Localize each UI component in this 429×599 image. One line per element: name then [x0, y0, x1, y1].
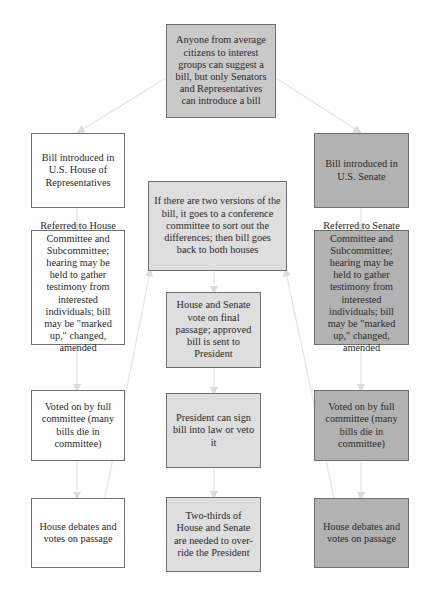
final-passage-text: House and Senate vote on final passage; …	[172, 299, 255, 360]
conference-committee-text: If there are two versions of the bill, i…	[154, 195, 281, 256]
senate-full-committee-box: Voted on by full committee (many bills d…	[314, 390, 409, 461]
house-committee-box: Referred to House Committee and Subcommi…	[31, 230, 125, 345]
house-full-committee-box: Voted on by full committee (many bills d…	[31, 390, 125, 461]
house-floor-vote-text: House debates and votes on passage	[37, 521, 119, 545]
president-sign-veto-text: President can sign bill into law or veto…	[172, 412, 255, 449]
house-committee-text: Referred to House Committee and Subcommi…	[37, 220, 119, 354]
house-floor-vote-box: House debates and votes on passage	[31, 498, 125, 568]
president-sign-veto-box: President can sign bill into law or veto…	[166, 393, 261, 468]
senate-introduced-text: Bill introduced in U.S. Senate	[320, 158, 403, 182]
senate-full-committee-text: Voted on by full committee (many bills d…	[320, 401, 403, 450]
conference-committee-box: If there are two versions of the bill, i…	[148, 181, 287, 271]
senate-committee-box: Referred to Senate Committee and Subcomm…	[314, 230, 409, 345]
final-passage-box: House and Senate vote on final passage; …	[166, 292, 261, 368]
house-introduced-text: Bill introduced in U.S. House of Represe…	[37, 152, 119, 189]
senate-committee-text: Referred to Senate Committee and Subcomm…	[320, 220, 403, 354]
senate-introduced-box: Bill introduced in U.S. Senate	[314, 133, 409, 208]
house-full-committee-text: Voted on by full committee (many bills d…	[37, 401, 119, 450]
senate-floor-vote-box: House debates and votes on passage	[314, 498, 409, 568]
origin-box: Anyone from average citizens to interest…	[166, 24, 276, 118]
senate-floor-vote-text: House debates and votes on passage	[320, 521, 403, 545]
veto-override-text: Two-thirds of House and Senate are neede…	[172, 510, 255, 559]
veto-override-box: Two-thirds of House and Senate are neede…	[166, 497, 261, 572]
origin-text: Anyone from average citizens to interest…	[172, 34, 270, 107]
house-introduced-box: Bill introduced in U.S. House of Represe…	[31, 133, 125, 208]
